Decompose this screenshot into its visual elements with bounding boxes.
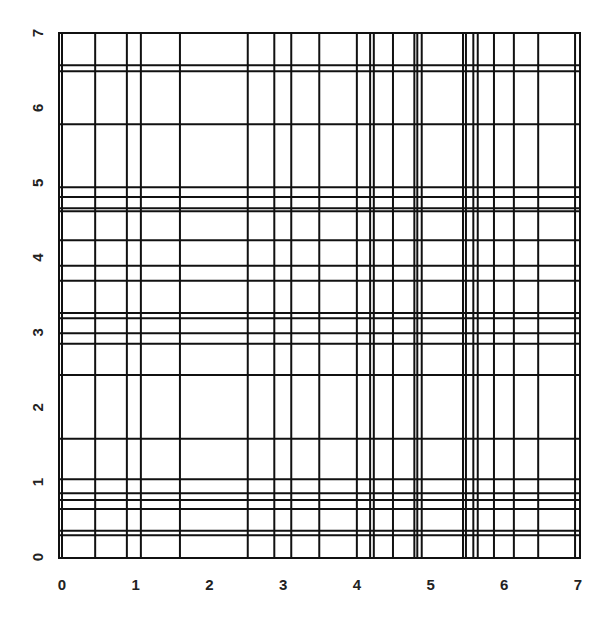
y-tick-label: 2 <box>29 403 46 411</box>
x-tick-label: 6 <box>500 576 508 593</box>
y-tick-label: 7 <box>29 29 46 37</box>
x-tick-label: 2 <box>205 576 213 593</box>
chart: 01234567 01234567 <box>0 0 607 620</box>
y-tick-label: 5 <box>29 179 46 187</box>
y-axis: 01234567 <box>29 29 46 561</box>
y-tick-label: 4 <box>29 253 46 262</box>
x-tick-label: 1 <box>132 576 140 593</box>
x-axis: 01234567 <box>58 576 582 593</box>
x-tick-label: 0 <box>58 576 66 593</box>
y-tick-label: 1 <box>29 478 46 486</box>
plot-lines <box>59 33 580 558</box>
y-tick-label: 0 <box>29 553 46 561</box>
x-tick-label: 5 <box>426 576 434 593</box>
x-tick-label: 7 <box>574 576 582 593</box>
x-tick-label: 4 <box>353 576 362 593</box>
x-tick-label: 3 <box>279 576 287 593</box>
y-tick-label: 3 <box>29 328 46 336</box>
y-tick-label: 6 <box>29 104 46 112</box>
